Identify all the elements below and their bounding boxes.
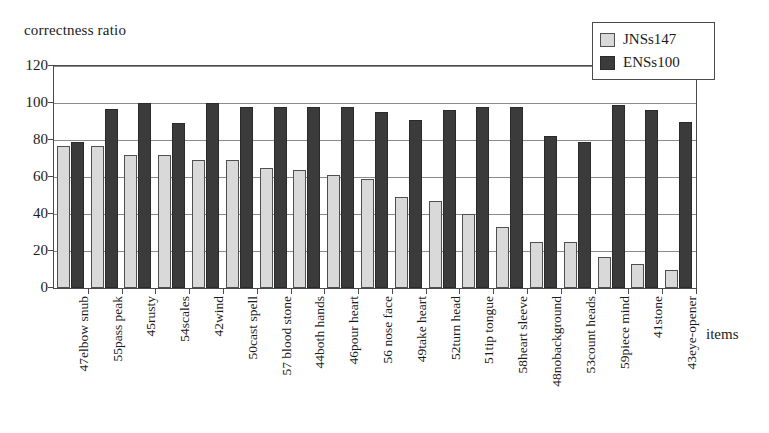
legend-swatch-jnss147	[600, 33, 615, 47]
bar	[375, 112, 388, 288]
x-category-label: 42wind	[211, 296, 227, 337]
bar-group	[462, 66, 490, 288]
x-category-label: 53count heads	[583, 296, 599, 374]
bar	[665, 270, 678, 289]
x-category-label: 49take heart	[414, 296, 430, 362]
bar	[645, 110, 658, 288]
bar	[510, 107, 523, 288]
bar	[124, 155, 137, 288]
bar	[409, 120, 422, 288]
bar	[158, 155, 171, 288]
y-tick-label-100: 100	[4, 94, 48, 111]
legend-label-enss100: ENSs100	[623, 55, 680, 70]
y-axis-title: correctness ratio	[24, 22, 126, 39]
bar	[91, 146, 104, 288]
chart-legend: JNSs147 ENSs100	[592, 22, 715, 80]
x-category-label: 44both hands	[312, 296, 328, 368]
bar-group	[158, 66, 186, 288]
bar	[429, 201, 442, 288]
bar	[564, 242, 577, 288]
bar	[206, 103, 219, 288]
x-category-label: 48nobackground	[549, 296, 565, 387]
x-tick-mark	[662, 288, 663, 294]
x-tick-mark	[122, 288, 123, 294]
x-category-label: 43eye-opener	[684, 296, 700, 369]
y-tick-label-20: 20	[4, 242, 48, 259]
x-tick-mark	[527, 288, 528, 294]
bar-group	[395, 66, 423, 288]
bar	[443, 110, 456, 288]
bar	[240, 107, 253, 288]
bar	[327, 175, 340, 288]
x-tick-mark	[223, 288, 224, 294]
y-tick-label-80: 80	[4, 131, 48, 148]
bar-group	[192, 66, 220, 288]
bar-group	[598, 66, 626, 288]
y-tick-label-0: 0	[4, 279, 48, 296]
bar-group	[429, 66, 457, 288]
bar-group	[124, 66, 152, 288]
x-tick-mark	[696, 288, 697, 294]
bar	[192, 160, 205, 288]
x-tick-mark	[628, 288, 629, 294]
y-tick-label-40: 40	[4, 205, 48, 222]
legend-label-jnss147: JNSs147	[623, 32, 676, 47]
x-tick-mark	[426, 288, 427, 294]
x-category-label: 58heart sleeve	[515, 296, 531, 374]
x-tick-mark	[257, 288, 258, 294]
x-tick-mark	[189, 288, 190, 294]
y-tick-label-120: 120	[4, 57, 48, 74]
x-category-label: 55pass peak	[110, 296, 126, 362]
bar	[631, 264, 644, 288]
bar	[226, 160, 239, 288]
y-tick-label-60: 60	[4, 168, 48, 185]
bar-group	[293, 66, 321, 288]
x-category-label: 52turn head	[448, 296, 464, 360]
legend-swatch-enss100	[600, 56, 615, 70]
bar	[578, 142, 591, 288]
bar-group	[260, 66, 288, 288]
x-category-label: 50cast spell	[245, 296, 261, 359]
bar	[274, 107, 287, 288]
bar	[260, 168, 273, 288]
bar-group	[665, 66, 693, 288]
x-tick-mark	[291, 288, 292, 294]
bar	[612, 105, 625, 288]
x-category-label: 54scales	[177, 296, 193, 342]
x-category-label: 41stone	[650, 296, 666, 338]
x-tick-mark	[459, 288, 460, 294]
x-category-label: 51tip tongue	[481, 296, 497, 364]
x-tick-mark	[392, 288, 393, 294]
bar	[476, 107, 489, 288]
y-axis-ticks: 020406080100120	[0, 65, 48, 289]
x-category-label: 59piece mind	[617, 296, 633, 369]
bar	[395, 197, 408, 288]
bar	[544, 136, 557, 288]
x-tick-mark	[595, 288, 596, 294]
bar	[138, 103, 151, 288]
x-tick-mark	[155, 288, 156, 294]
bar-group	[57, 66, 85, 288]
bar	[105, 109, 118, 288]
x-category-label: 46pour heart	[346, 296, 362, 365]
x-axis-category-labels: 47elbow snub55pass peak45rusty54scales42…	[53, 296, 697, 426]
legend-item-0: JNSs147	[600, 28, 707, 51]
legend-item-1: ENSs100	[600, 51, 707, 74]
bar	[598, 257, 611, 288]
x-tick-mark	[324, 288, 325, 294]
bar	[57, 146, 70, 288]
x-category-label: 45rusty	[143, 296, 159, 337]
x-axis-title: items	[706, 326, 739, 343]
bar	[71, 142, 84, 288]
x-category-label: 47elbow snub	[76, 296, 92, 371]
bar-chart: correctness ratio items 020406080100120 …	[0, 0, 769, 433]
bar-group	[530, 66, 558, 288]
x-tick-mark	[493, 288, 494, 294]
bar	[341, 107, 354, 288]
plot-area	[53, 65, 697, 289]
bar-group	[226, 66, 254, 288]
bar	[679, 122, 692, 289]
bar	[361, 179, 374, 288]
x-category-label: 57 blood stone	[279, 296, 295, 376]
bar	[293, 170, 306, 288]
